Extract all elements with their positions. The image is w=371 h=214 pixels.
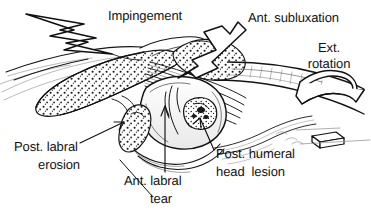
label-post-labral-erosion-line1: Post. labral — [14, 139, 78, 154]
tissue-marks — [276, 132, 303, 144]
illustration-canvas — [0, 0, 371, 214]
curved-band-arrow-rotation — [296, 70, 364, 104]
lightning-bolt-icon — [26, 14, 112, 54]
label-ant-labral-tear-line1: Ant. labral — [124, 173, 181, 188]
label-ext-rotation-line1: Ext. — [296, 40, 362, 55]
label-ext-rotation-line2: rotation — [292, 56, 366, 71]
leader-post-labral-erosion — [80, 122, 124, 143]
label-ant-subluxation: Ant. subluxation — [248, 10, 339, 25]
label-ant-labral-tear-line2: tear — [124, 191, 198, 206]
posterior-labrum — [119, 105, 151, 152]
label-post-humeral-head-lesion-line1: Post. humeral — [216, 146, 295, 161]
shoulder-impingement-figure: Impingement Ant. subluxation Ext. rotati… — [0, 0, 371, 214]
label-post-labral-erosion-line2: erosion — [14, 157, 104, 172]
label-impingement: Impingement — [108, 8, 182, 23]
label-post-humeral-head-lesion-line2: head lesion — [216, 164, 285, 179]
block-slab-icon — [312, 132, 344, 148]
